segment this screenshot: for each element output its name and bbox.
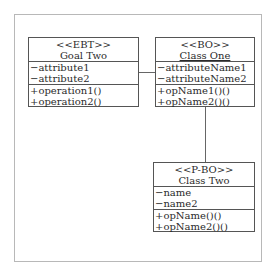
attributes-section: −name −name2 [154,186,254,209]
attributes-section: −attributeName1 −attributeName2 [156,61,254,84]
attribute: −name2 [155,198,254,209]
operation: +opName2()() [155,221,254,232]
operation: +opName1()() [157,85,254,96]
association-goal-two-class-one [139,72,155,73]
stereotype: <<P-BO>> [154,164,254,175]
attribute: −attribute2 [30,73,138,84]
attribute: −attribute1 [30,62,138,73]
operations-section: +opName1()() +opName2()() [156,84,254,107]
class-name: Class Two [154,175,254,186]
class-name: Class One [156,50,254,61]
class-box-goal-two[interactable]: <<EBT>> Goal Two −attribute1 −attribute2… [28,37,139,107]
class-box-class-two[interactable]: <<P-BO>> Class Two −name −name2 +opName(… [153,162,255,232]
attribute: −attributeName1 [157,62,254,73]
stereotype: <<BO>> [156,39,254,50]
attribute: −attributeName2 [157,73,254,84]
operation: +operation2() [30,96,138,107]
operations-section: +opName()() +opName2()() [154,209,254,232]
class-box-class-one[interactable]: <<BO>> Class One −attributeName1 −attrib… [155,37,255,107]
operations-section: +operation1() +operation2() [29,84,138,107]
attributes-section: −attribute1 −attribute2 [29,61,138,84]
class-header: <<P-BO>> Class Two [154,163,254,186]
class-header: <<BO>> Class One [156,38,254,61]
association-class-one-class-two [205,107,206,162]
attribute: −name [155,187,254,198]
stereotype: <<EBT>> [29,39,138,50]
class-header: <<EBT>> Goal Two [29,38,138,61]
operation: +opName2()() [157,96,254,107]
operation: +opName()() [155,210,254,221]
class-name: Goal Two [29,50,138,61]
operation: +operation1() [30,85,138,96]
